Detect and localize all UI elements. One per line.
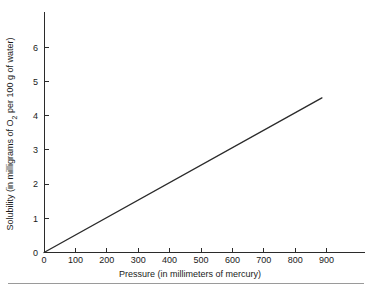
chart-canvas: 0 1 2 3 4 5 6 0 100 200 300 400 bbox=[0, 0, 372, 291]
solubility-data-line bbox=[44, 98, 322, 253]
y-axis-title: Solubility (in milligrams of O2 per 100 … bbox=[5, 38, 18, 231]
x-tick-label-800: 800 bbox=[288, 255, 303, 265]
footer-divider bbox=[8, 283, 364, 284]
y-tick-label-6: 6 bbox=[33, 43, 38, 53]
x-tick-label-500: 500 bbox=[193, 255, 208, 265]
y-axis-title-before: Solubility (in milligrams of O bbox=[5, 119, 15, 230]
y-tick-marks bbox=[44, 47, 49, 252]
x-axis-title: Pressure (in millimeters of mercury) bbox=[119, 269, 261, 279]
y-tick-label-1: 1 bbox=[33, 214, 38, 224]
x-tick-labels: 0 100 200 300 400 500 600 700 800 900 bbox=[41, 255, 334, 265]
solubility-pressure-chart: 0 1 2 3 4 5 6 0 100 200 300 400 bbox=[0, 0, 372, 291]
x-tick-label-900: 900 bbox=[319, 255, 334, 265]
x-tick-label-0: 0 bbox=[41, 255, 46, 265]
y-tick-label-0: 0 bbox=[33, 248, 38, 258]
x-tick-label-300: 300 bbox=[131, 255, 146, 265]
y-tick-labels: 0 1 2 3 4 5 6 bbox=[33, 43, 38, 258]
x-tick-label-600: 600 bbox=[225, 255, 240, 265]
y-tick-label-2: 2 bbox=[33, 179, 38, 189]
y-tick-label-4: 4 bbox=[33, 111, 38, 121]
x-tick-label-400: 400 bbox=[162, 255, 177, 265]
y-tick-label-3: 3 bbox=[33, 145, 38, 155]
x-tick-label-200: 200 bbox=[99, 255, 114, 265]
x-tick-marks bbox=[44, 248, 327, 253]
x-tick-label-700: 700 bbox=[256, 255, 271, 265]
y-tick-label-5: 5 bbox=[33, 77, 38, 87]
y-axis-title-after: per 100 g of water) bbox=[5, 38, 15, 116]
x-tick-label-100: 100 bbox=[68, 255, 83, 265]
